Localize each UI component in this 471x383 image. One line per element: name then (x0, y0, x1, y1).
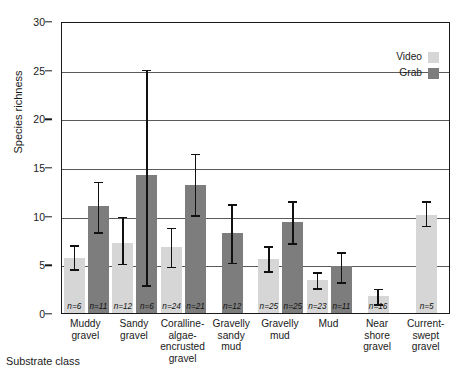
x-tick-label-line: Current- (395, 318, 456, 330)
x-tick-label-line: gravel (395, 341, 456, 353)
n-label-grab-2: n=21 (185, 302, 206, 311)
error-cap-low-grab-1 (142, 285, 151, 287)
gridline-20 (62, 120, 449, 121)
error-bar-video-4 (268, 247, 270, 272)
error-cap-high-video-1 (118, 217, 127, 219)
error-cap-high-video-0 (70, 245, 79, 247)
y-axis-title: Species richness (12, 32, 24, 192)
error-cap-high-video-4 (264, 246, 273, 248)
x-tick-label-line: mud (201, 341, 262, 353)
legend-item-video: Video (353, 49, 439, 65)
error-cap-high-grab-2 (191, 154, 200, 156)
error-cap-high-grab-3 (228, 204, 237, 206)
legend-swatch-grab (428, 68, 439, 79)
bar-video-7 (416, 215, 437, 313)
y-tick-mark-30 (45, 21, 52, 22)
x-tick-label-line: swept (395, 330, 456, 342)
error-bar-video-7 (426, 202, 428, 226)
error-bar-video-5 (317, 273, 319, 289)
error-cap-low-video-5 (313, 288, 322, 290)
n-label-grab-3: n=12 (222, 302, 243, 311)
n-label-grab-5: n=11 (331, 302, 352, 311)
error-bar-video-2 (171, 228, 173, 267)
n-label-video-1: n=12 (112, 302, 133, 311)
legend-label-video: Video (396, 52, 422, 62)
error-bar-grab-3 (231, 205, 233, 263)
error-cap-high-video-5 (313, 272, 322, 274)
x-axis: MuddygravelSandygravelCoralline-algae-en… (61, 316, 450, 383)
error-bar-grab-4 (292, 202, 294, 244)
error-cap-high-grab-4 (288, 201, 297, 203)
n-label-grab-4: n=25 (282, 302, 303, 311)
error-cap-low-grab-3 (228, 263, 237, 265)
y-tick-label-20: 20 (33, 114, 45, 125)
y-tick-mark-20 (45, 119, 52, 120)
error-cap-low-video-1 (118, 264, 127, 266)
y-tick-label-10: 10 (33, 211, 45, 222)
error-cap-low-grab-2 (191, 215, 200, 217)
y-tick-mark-5 (45, 265, 52, 266)
error-cap-low-video-2 (167, 267, 176, 269)
y-axis: Species richness 051015202530 (0, 0, 61, 383)
y-tick-label-30: 30 (33, 17, 45, 28)
error-cap-high-grab-5 (337, 252, 346, 254)
error-cap-low-video-7 (422, 226, 431, 228)
y-tick-mark-10 (45, 216, 52, 217)
error-cap-high-grab-0 (94, 182, 103, 184)
error-cap-low-grab-5 (337, 282, 346, 284)
x-tick-label-7: Current-sweptgravel (395, 318, 456, 353)
x-tick-label-line: gravel (152, 353, 213, 365)
error-cap-high-video-6 (374, 289, 383, 291)
error-cap-high-grab-1 (142, 70, 151, 72)
n-label-video-5: n=23 (307, 302, 328, 311)
error-cap-high-video-2 (167, 228, 176, 230)
n-label-video-6: n=16 (368, 302, 389, 311)
legend: Video Grab (353, 49, 439, 81)
legend-label-grab: Grab (399, 68, 422, 78)
error-bar-grab-0 (98, 183, 100, 234)
n-label-grab-0: n=11 (88, 302, 109, 311)
x-tick-label-line: mud (250, 330, 311, 342)
legend-swatch-video (428, 52, 439, 63)
error-bar-grab-1 (146, 71, 148, 286)
n-label-video-4: n=25 (258, 302, 279, 311)
y-tick-label-15: 15 (33, 163, 45, 174)
error-cap-low-video-4 (264, 271, 273, 273)
y-tick-label-25: 25 (33, 65, 45, 76)
error-cap-low-video-0 (70, 269, 79, 271)
error-cap-low-grab-4 (288, 243, 297, 245)
error-cap-high-video-7 (422, 201, 431, 203)
n-label-video-7: n=5 (416, 302, 437, 311)
error-bar-video-0 (74, 246, 76, 270)
y-tick-mark-25 (45, 70, 52, 71)
error-bar-grab-2 (195, 154, 197, 215)
n-label-grab-1: n=6 (136, 302, 157, 311)
n-label-video-0: n=6 (64, 302, 85, 311)
error-bar-grab-5 (341, 253, 343, 283)
plot-area: n=6n=11n=12n=6n=24n=21n=12n=25n=25n=23n=… (61, 22, 450, 314)
species-richness-bar-chart: Species richness 051015202530 n=6n=11n=1… (0, 0, 471, 383)
n-label-video-2: n=24 (161, 302, 182, 311)
legend-item-grab: Grab (353, 65, 439, 81)
error-bar-video-1 (122, 218, 124, 265)
error-cap-low-grab-0 (94, 232, 103, 234)
y-tick-mark-0 (45, 313, 52, 314)
y-tick-mark-15 (45, 167, 52, 168)
x-axis-title: Substrate class (6, 355, 80, 367)
gridline-15 (62, 169, 449, 170)
